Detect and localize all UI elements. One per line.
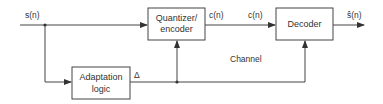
adaptation-label-line2: logic <box>92 84 111 94</box>
block-diagram: s(n) Quantizer/ encoder c(n) c(n) Decode… <box>0 0 383 104</box>
channel-label: Channel <box>230 54 262 64</box>
code-in-label: c(n) <box>248 10 263 20</box>
output-label: ŝ(n) <box>347 10 362 20</box>
code-out-label: c(n) <box>209 10 224 20</box>
adaptation-label-line1: Adaptation <box>79 72 122 82</box>
branch-to-adaptation-arrow <box>45 25 71 82</box>
quantizer-label-line2: encoder <box>160 24 193 34</box>
decoder-label: Decoder <box>287 19 321 29</box>
quantizer-label-line1: Quantizer/ <box>156 13 198 23</box>
input-label: s(n) <box>25 10 40 20</box>
step-size-label: Δ <box>134 70 140 80</box>
